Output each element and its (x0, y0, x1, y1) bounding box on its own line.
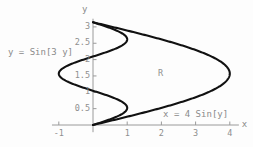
region-label: R (158, 68, 163, 78)
y-tick-label: 1 (65, 87, 90, 96)
plot-canvas (0, 0, 253, 147)
x-axis-label: x (242, 119, 247, 129)
x-axis-ticks (59, 122, 230, 126)
x-tick-label: 2 (152, 129, 170, 138)
curve-label-right: x = 4 Sin[y] (163, 109, 228, 119)
y-tick-label: 3 (65, 22, 90, 31)
x-tick-label: -1 (50, 129, 68, 138)
y-tick-label: 0.5 (65, 104, 90, 113)
x-tick-label: 1 (118, 129, 136, 138)
y-tick-label: 2 (65, 55, 90, 64)
y-tick-label: 2.5 (65, 38, 90, 47)
y-tick-label: 1.5 (65, 71, 90, 80)
y-axis-ticks (93, 27, 97, 109)
plot-figure: y x R y = Sin[3 y] x = 4 Sin[y] -11234 0… (0, 0, 253, 147)
x-tick-label: 3 (187, 129, 205, 138)
y-axis-label: y (82, 4, 87, 14)
curve-label-left: y = Sin[3 y] (8, 47, 73, 57)
x-tick-label: 4 (221, 129, 239, 138)
